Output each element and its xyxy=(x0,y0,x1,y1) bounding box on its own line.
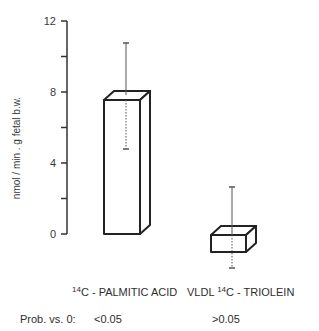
y-axis-label: nmol / min . g fetal b.w. xyxy=(11,97,22,199)
y-tick-label: 4 xyxy=(50,157,56,169)
bar-vldl-triolein xyxy=(211,226,256,252)
y-tick-label: 8 xyxy=(50,86,56,98)
bar-palmitic-acid xyxy=(104,91,150,234)
y-tick-labels: 0 4 8 12 xyxy=(44,15,56,240)
category-label-vldl-triolein: VLDL 14C - TRIOLEIN xyxy=(187,285,294,298)
bar-chart: nmol / min . g fetal b.w. 0 4 8 12 xyxy=(0,0,319,331)
category-label-palmitic-acid: 14C - PALMITIC ACID xyxy=(72,285,177,298)
prob-value-palmitic-acid: <0.05 xyxy=(94,313,122,325)
prob-label: Prob. vs. 0: xyxy=(20,313,76,325)
y-tick-label: 0 xyxy=(50,228,56,240)
y-axis xyxy=(61,21,67,234)
y-tick-label: 12 xyxy=(44,15,56,27)
prob-value-vldl-triolein: >0.05 xyxy=(212,313,240,325)
